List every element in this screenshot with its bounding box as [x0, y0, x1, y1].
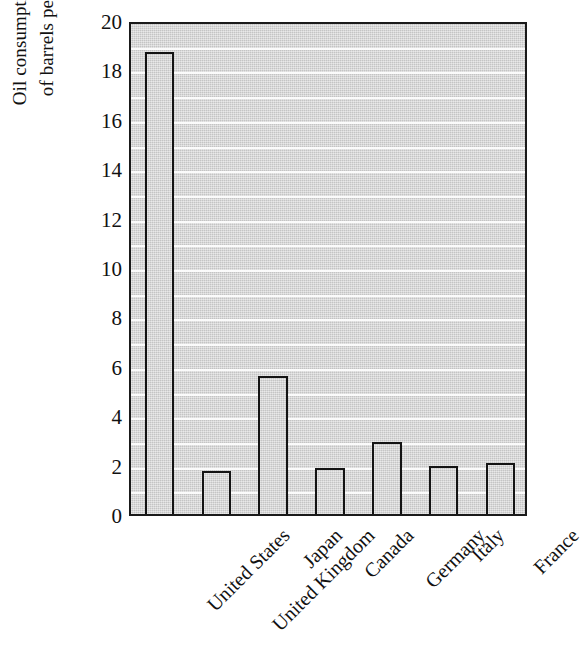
- y-axis-tick-label: 12: [101, 209, 122, 230]
- bar: [202, 471, 232, 514]
- x-axis-tick-labels: United StatesUnited KingdomJapanCanadaGe…: [129, 516, 527, 666]
- y-axis-title-line-2: of barrels per day in 2000: [33, 0, 60, 96]
- y-axis-title: Oil consumption in millions of barrels p…: [2, 0, 64, 162]
- bar: [372, 442, 402, 514]
- bar: [315, 468, 345, 514]
- x-axis-tick-label: United States: [203, 524, 294, 615]
- y-axis-title-line-1: Oil consumption in millions: [6, 0, 33, 105]
- bar: [258, 376, 288, 514]
- bar: [429, 466, 459, 514]
- y-axis-tick-label: 10: [101, 259, 122, 280]
- y-axis-tick-label: 8: [112, 308, 123, 329]
- y-axis-tick-label: 18: [101, 61, 122, 82]
- y-axis-tick-label: 16: [101, 110, 122, 131]
- y-axis-tick-label: 6: [112, 357, 123, 378]
- bar: [145, 52, 175, 514]
- y-axis-tick-labels: 02468101214161820: [84, 22, 122, 516]
- y-axis-tick-label: 20: [101, 12, 122, 33]
- x-axis-tick-label: France: [529, 524, 583, 578]
- bar-series: [131, 24, 525, 514]
- y-axis-tick-label: 4: [112, 407, 123, 428]
- y-axis-tick-label: 14: [101, 160, 122, 181]
- plot-area: [129, 22, 527, 516]
- y-axis-tick-label: 2: [112, 456, 123, 477]
- bar: [486, 463, 516, 514]
- y-axis-tick-label: 0: [112, 506, 123, 527]
